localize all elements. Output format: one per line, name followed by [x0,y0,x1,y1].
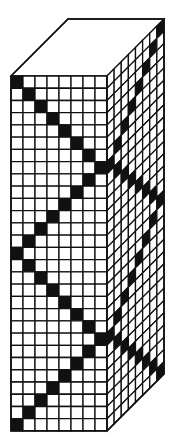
filled-cell [35,100,47,112]
grid-cell [71,174,83,186]
grid-cell [35,370,47,382]
grid-cell [35,211,47,223]
grid-cell [95,174,107,186]
grid-cell [83,125,95,137]
grid-cell [95,149,107,161]
filled-cell [11,419,23,431]
grid-cell [71,260,83,272]
grid-cell [71,76,83,88]
grid-cell [23,419,35,431]
grid-cell [95,100,107,112]
grid-cell [11,113,23,125]
grid-cell [35,162,47,174]
grid-cell [11,235,23,247]
grid-cell [59,162,71,174]
grid-cell [71,406,83,418]
grid-cell [83,394,95,406]
grid-cell [83,235,95,247]
grid-cell [83,137,95,149]
grid-cell [35,309,47,321]
grid-cell [95,198,107,210]
filled-cell [47,382,59,394]
filled-cell [59,370,71,382]
grid-cell [95,88,107,100]
grid-cell [95,284,107,296]
grid-cell [59,284,71,296]
grid-cell [11,272,23,284]
grid-cell [59,76,71,88]
grid-cell [35,260,47,272]
grid-cell [71,235,83,247]
grid-cell [23,211,35,223]
grid-cell [35,125,47,137]
grid-cell [95,235,107,247]
grid-cell [83,406,95,418]
grid-cell [95,382,107,394]
grid-cell [47,358,59,370]
grid-cell [11,186,23,198]
grid-cell [23,345,35,357]
grid-cell [71,88,83,100]
grid-cell [35,76,47,88]
grid-cell [95,406,107,418]
grid-cell [23,162,35,174]
grid-cell [83,162,95,174]
filled-cell [11,76,23,88]
grid-cell [83,76,95,88]
prism-svg [0,0,175,445]
grid-cell [59,149,71,161]
grid-cell [95,247,107,259]
grid-cell [95,394,107,406]
grid-cell [23,333,35,345]
grid-cell [47,198,59,210]
grid-cell [71,113,83,125]
grid-cell [83,296,95,308]
grid-cell [11,321,23,333]
grid-cell [47,260,59,272]
grid-cell [23,223,35,235]
grid-cell [11,345,23,357]
grid-cell [11,296,23,308]
grid-cell [59,223,71,235]
grid-cell [47,125,59,137]
grid-cell [71,125,83,137]
grid-cell [23,370,35,382]
filled-cell [23,406,35,418]
filled-cell [23,88,35,100]
grid-cell [35,113,47,125]
grid-cell [11,358,23,370]
grid-cell [59,419,71,431]
grid-cell [95,296,107,308]
grid-cell [59,382,71,394]
grid-cell [23,149,35,161]
grid-cell [95,186,107,198]
grid-cell [83,419,95,431]
grid-cell [95,76,107,88]
grid-cell [11,406,23,418]
grid-cell [11,149,23,161]
grid-cell [23,174,35,186]
grid-cell [47,76,59,88]
grid-cell [59,394,71,406]
grid-cell [35,358,47,370]
grid-cell [95,113,107,125]
grid-cell [95,272,107,284]
grid-cell [11,309,23,321]
grid-cell [71,149,83,161]
grid-cell [47,162,59,174]
grid-cell [71,296,83,308]
grid-cell [83,223,95,235]
filled-cell [35,223,47,235]
grid-cell [11,100,23,112]
grid-cell [59,113,71,125]
grid-cell [35,345,47,357]
filled-cell [59,198,71,210]
grid-cell [59,321,71,333]
grid-cell [23,76,35,88]
filled-cell [71,309,83,321]
grid-cell [47,235,59,247]
filled-cell [59,296,71,308]
prism-diagram [0,0,175,445]
grid-cell [47,186,59,198]
grid-cell [59,333,71,345]
